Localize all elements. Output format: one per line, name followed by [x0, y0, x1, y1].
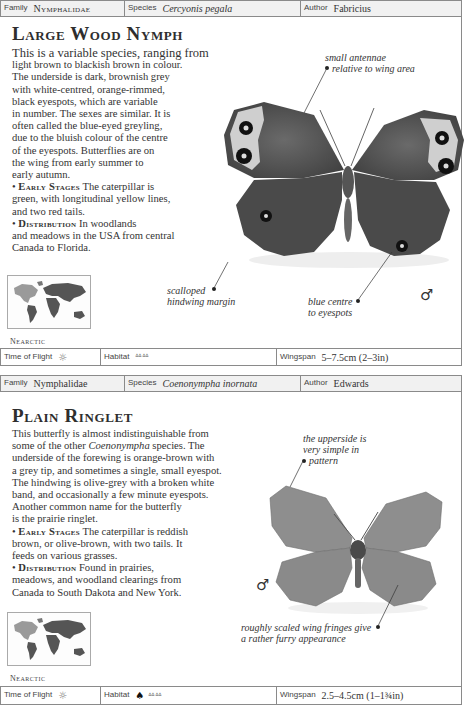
wingspan-value: 2.5–4.5cm (1–1¾in)	[322, 690, 404, 701]
distribution-line: • Distribution In woodlands	[12, 218, 237, 230]
author-value: Edwards	[334, 378, 369, 389]
distribution-label: Distribution	[18, 562, 76, 573]
early-stages-text: The caterpillar is reddish	[80, 526, 188, 537]
caption-line: hindwing margin	[167, 296, 235, 307]
desc-line: due to the bluish colour of the centre	[12, 132, 237, 144]
desc-line: Another common name for the butterfly	[12, 501, 247, 513]
early-stages-text: The caterpillar is	[80, 181, 154, 192]
time-of-flight-cell: Time of Flight ☼	[1, 349, 101, 365]
wingspan-label: Wingspan	[280, 690, 316, 699]
time-of-flight-label: Time of Flight	[4, 352, 52, 361]
desc-line: This is a variable species, ranging from	[12, 47, 237, 59]
species-value: Coenonympha inornata	[162, 378, 257, 389]
desc-line: with white-centred, orange-rimmed,	[12, 84, 237, 96]
entry-1-title: Large Wood Nymph	[12, 23, 183, 45]
habitat-label: Habitat	[104, 352, 129, 361]
caption-line: relative to wing area	[325, 63, 415, 74]
caption-line: to eyespots	[308, 307, 352, 318]
family-cell: Family Nymphalidae	[1, 376, 125, 391]
entry-1-header-bar: Family Nymphalidae Species Cercyonis peg…	[0, 0, 462, 17]
family-label: Family	[4, 378, 28, 387]
distribution-text: meadows, and woodland clearings from	[12, 574, 247, 586]
desc-line: The hindwing is olive-grey with a broken…	[12, 477, 247, 489]
distribution-text: In woodlands	[76, 218, 136, 229]
annotation-upperside-simple: the upperside is very simple in pattern	[303, 433, 366, 466]
caption-line: pattern	[303, 455, 366, 466]
caption-line: very simple in	[303, 444, 366, 455]
caption-line: blue centre	[308, 296, 352, 307]
early-stages-text: brown, or olive-brown, with two tails. I…	[12, 538, 247, 550]
sun-icon: ☼	[58, 352, 67, 363]
annotation-wing-fringes: roughly scaled wing fringes give a rathe…	[241, 622, 371, 644]
desc-line: The underside is dark, brownish grey	[12, 71, 237, 83]
tree-icon: ♠	[135, 690, 144, 701]
species-value: Cercyonis pegala	[162, 3, 232, 14]
grass-icon: ᐞᐞ ᐞᐞ	[148, 692, 161, 700]
species-cell: Species Cercyonis pegala	[125, 1, 301, 16]
early-stages-text: feeds on various grasses.	[12, 550, 247, 562]
desc-line: black eyespots, which are variable	[12, 96, 237, 108]
distribution-label: Distribution	[18, 218, 76, 229]
plain-ringlet-illustration	[266, 478, 446, 618]
wingspan-cell: Wingspan 5–7.5cm (2–3in)	[277, 349, 461, 365]
desc-line: often called the blue-eyed greyling,	[12, 120, 237, 132]
desc-text: species. The	[150, 440, 205, 451]
desc-line: light brown to blackish brown in colour.	[12, 59, 237, 71]
entry-1-description: This is a variable species, ranging from…	[12, 47, 237, 254]
desc-line: This butterfly is almost indistinguishab…	[12, 428, 247, 440]
desc-line: underside of the forewing is orange-brow…	[12, 452, 247, 464]
annotation-small-antennae: small antennae relative to wing area	[325, 52, 415, 74]
distribution-text: Canada to South Dakota and New York.	[12, 587, 247, 599]
wingspan-label: Wingspan	[280, 352, 316, 361]
family-label: Family	[4, 3, 28, 12]
large-wood-nymph-illustration	[224, 70, 464, 280]
time-of-flight-cell: Time of Flight ☼	[1, 687, 101, 704]
desc-line: is the prairie ringlet.	[12, 513, 247, 525]
author-cell: Author Edwards	[301, 376, 461, 391]
region-label: Nearctic	[10, 674, 45, 683]
caption-line: small antennae	[325, 52, 415, 63]
early-stages-label: Early Stages	[18, 526, 80, 537]
male-symbol-icon: ♂	[420, 286, 433, 304]
caption-line: a rather furry appearance	[241, 633, 371, 644]
author-value: Fabricius	[334, 3, 371, 14]
entry-2-description: This butterfly is almost indistinguishab…	[12, 428, 247, 599]
early-stages-text: green, with longitudinal yellow lines,	[12, 193, 237, 205]
family-cell: Family Nymphalidae	[1, 1, 125, 16]
entry-2-header-bar: Family Nymphalidae Species Coenonympha i…	[0, 375, 462, 392]
family-value: Nymphalidae	[34, 378, 88, 389]
desc-line: band, and occasionally a few minute eyes…	[12, 489, 247, 501]
pointer-line	[302, 68, 332, 118]
species-label: Species	[128, 378, 156, 387]
desc-line: a grey tip, and sometimes a single, smal…	[12, 465, 247, 477]
pointer-line	[358, 252, 398, 302]
author-label: Author	[304, 3, 328, 12]
annotation-blue-centre: blue centre to eyespots	[308, 296, 352, 318]
genus-name: Coenonympha	[89, 440, 150, 451]
distribution-text: Found in prairies,	[76, 562, 154, 573]
desc-line: the wing from early summer to	[12, 157, 237, 169]
distribution-text: and meadows in the USA from central	[12, 230, 237, 242]
male-symbol-icon: ♂	[256, 576, 269, 594]
grass-icon: ᐞᐞ ᐞᐞ	[135, 353, 148, 361]
entry-1-footer-bar: Time of Flight ☼ Habitat ᐞᐞ ᐞᐞ Wingspan …	[0, 348, 462, 366]
habitat-cell: Habitat ᐞᐞ ᐞᐞ	[101, 349, 277, 365]
distribution-text: Canada to Florida.	[12, 242, 237, 254]
author-label: Author	[304, 378, 328, 387]
caption-line: the upperside is	[303, 433, 366, 444]
wingspan-cell: Wingspan 2.5–4.5cm (1–1¾in)	[277, 687, 461, 704]
desc-line: in number. The sexes are similar. It is	[12, 108, 237, 120]
early-stages-line: • Early Stages The caterpillar is	[12, 181, 237, 193]
early-stages-line: • Early Stages The caterpillar is reddis…	[12, 526, 247, 538]
species-cell: Species Coenonympha inornata	[125, 376, 301, 391]
pointer-line	[214, 262, 244, 292]
family-value: Nymphalidae	[34, 3, 91, 14]
entry-2-title: Plain Ringlet	[12, 405, 133, 427]
desc-line: some of the other Coenonympha species. T…	[12, 440, 247, 452]
world-map-icon	[7, 612, 91, 666]
pointer-line	[378, 585, 408, 635]
species-label: Species	[128, 3, 156, 12]
desc-text: some of the other	[12, 440, 89, 451]
desc-line: early autumn.	[12, 169, 237, 181]
caption-line: roughly scaled wing fringes give	[241, 622, 371, 633]
